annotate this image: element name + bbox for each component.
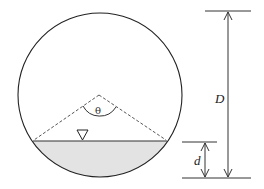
theta-label: θ [95,105,101,116]
partially-full-pipe-diagram: θ D d [0,0,264,189]
diameter-label: D [214,91,225,106]
depth-label: d [194,153,201,168]
dashed-radius-left [34,95,99,140]
dashed-radius-right [99,95,166,140]
water-segment [0,141,264,189]
free-surface-symbol-icon [77,130,88,140]
